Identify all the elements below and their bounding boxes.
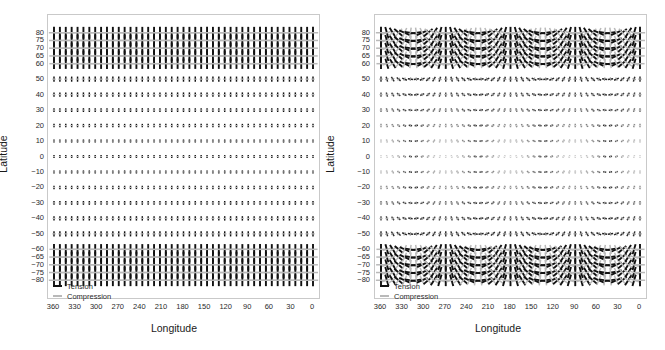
panel-b-key-legend: Tension Compression <box>380 281 438 301</box>
y-axis-tick-label: 60 <box>346 58 370 67</box>
panel-b-y-axis-title: Latitude <box>324 135 336 172</box>
y-axis-tick-label: −80 <box>346 275 370 284</box>
compression-label: Compression <box>394 292 438 301</box>
key-row-compression: Compression <box>53 291 111 301</box>
x-axis-tick-label: 330 <box>68 302 81 311</box>
x-axis-tick-label: 240 <box>460 302 473 311</box>
y-axis-tick-label: 50 <box>20 74 44 83</box>
y-axis-tick-label: −20 <box>20 182 44 191</box>
y-axis-tick-label: 50 <box>346 74 370 83</box>
y-axis-tick-label: 20 <box>346 120 370 129</box>
y-axis-tick-label: 40 <box>346 89 370 98</box>
y-axis-tick-label: −50 <box>20 228 44 237</box>
y-axis-tick-label: 60 <box>20 58 44 67</box>
y-axis-tick-label: −10 <box>20 166 44 175</box>
y-axis-tick-label: 30 <box>346 105 370 114</box>
panel-a-plot-area <box>47 14 320 299</box>
x-axis-tick-label: 210 <box>155 302 168 311</box>
y-axis-tick-label: 20 <box>20 120 44 129</box>
key-row-tension: Tension <box>380 281 438 291</box>
x-axis-tick-label: 270 <box>438 302 451 311</box>
y-axis-tick-label: 10 <box>20 136 44 145</box>
panel-b: (b) 1 bar or 105 Pa Tension Compression … <box>332 0 664 350</box>
panel-b-x-axis-title: Longitude <box>332 322 664 334</box>
panel-a-glyph-layer <box>48 15 319 298</box>
x-axis-tick-label: 150 <box>198 302 211 311</box>
x-axis-tick-label: 90 <box>243 302 251 311</box>
x-axis-tick-label: 0 <box>310 302 314 311</box>
y-axis-tick-label: 0 <box>346 151 370 160</box>
x-axis-tick-label: 150 <box>525 302 538 311</box>
y-axis-tick-label: −20 <box>346 182 370 191</box>
x-axis-tick-label: 60 <box>265 302 273 311</box>
compression-bar-icon <box>53 295 62 296</box>
x-axis-tick-label: 300 <box>90 302 103 311</box>
y-axis-tick-label: −50 <box>346 228 370 237</box>
x-axis-tick-label: 360 <box>374 302 387 311</box>
stress-field-figure: (a) 1 bar or 105 Pa Tension Compression … <box>0 0 665 350</box>
x-axis-tick-label: 330 <box>395 302 408 311</box>
x-axis-tick-label: 360 <box>47 302 60 311</box>
tension-bar-icon <box>380 285 389 287</box>
tension-label: Tension <box>67 282 93 291</box>
x-axis-tick-label: 120 <box>219 302 232 311</box>
x-axis-tick-label: 210 <box>482 302 495 311</box>
tension-label: Tension <box>394 282 420 291</box>
y-axis-tick-label: −30 <box>20 197 44 206</box>
panel-b-plot-area <box>374 14 647 299</box>
panel-a-x-axis-title: Longitude <box>8 322 340 334</box>
y-axis-tick-label: 10 <box>346 136 370 145</box>
x-axis-tick-label: 180 <box>503 302 516 311</box>
panel-a-y-axis-title: Latitude <box>0 135 9 172</box>
compression-bar-icon <box>380 295 389 296</box>
x-axis-tick-label: 30 <box>613 302 621 311</box>
y-axis-tick-label: −10 <box>346 166 370 175</box>
y-axis-tick-label: −30 <box>346 197 370 206</box>
x-axis-tick-label: 270 <box>111 302 124 311</box>
y-axis-tick-label: 0 <box>20 151 44 160</box>
key-row-compression: Compression <box>380 291 438 301</box>
compression-label: Compression <box>67 292 111 301</box>
x-axis-tick-label: 0 <box>637 302 641 311</box>
y-axis-tick-label: 30 <box>20 105 44 114</box>
y-axis-tick-label: −80 <box>20 275 44 284</box>
y-axis-tick-label: −40 <box>346 213 370 222</box>
x-axis-tick-label: 180 <box>176 302 189 311</box>
x-axis-tick-label: 90 <box>570 302 578 311</box>
panel-a: (a) 1 bar or 105 Pa Tension Compression … <box>0 0 332 350</box>
x-axis-tick-label: 300 <box>417 302 430 311</box>
panel-b-glyph-layer <box>375 15 646 298</box>
y-axis-tick-label: 40 <box>20 89 44 98</box>
x-axis-tick-label: 120 <box>546 302 559 311</box>
x-axis-tick-label: 60 <box>592 302 600 311</box>
x-axis-tick-label: 30 <box>286 302 294 311</box>
y-axis-tick-label: −40 <box>20 213 44 222</box>
panel-a-key-legend: Tension Compression <box>53 281 111 301</box>
tension-bar-icon <box>53 285 62 287</box>
key-row-tension: Tension <box>53 281 111 291</box>
x-axis-tick-label: 240 <box>133 302 146 311</box>
